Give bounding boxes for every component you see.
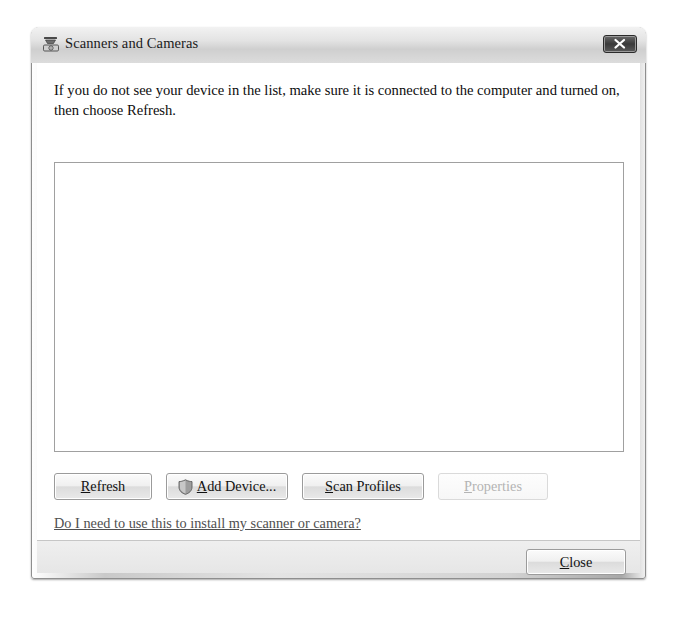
refresh-accel: R: [81, 478, 91, 494]
add-device-label: dd Device...: [207, 478, 276, 494]
help-link[interactable]: Do I need to use this to install my scan…: [54, 515, 361, 532]
add-device-button[interactable]: Add Device...: [166, 473, 288, 500]
refresh-button[interactable]: Refresh: [54, 473, 152, 500]
device-list-box[interactable]: [54, 162, 624, 452]
scan-profiles-button[interactable]: Scan Profiles: [302, 473, 424, 500]
add-device-accel: A: [197, 478, 207, 494]
title-bar: Scanners and Cameras: [31, 27, 646, 63]
close-button[interactable]: Close: [526, 549, 626, 575]
properties-button: Properties: [438, 473, 548, 500]
scanner-camera-icon: [42, 36, 60, 53]
close-accel: C: [560, 554, 570, 570]
window-title: Scanners and Cameras: [65, 35, 198, 52]
scan-profiles-accel: S: [325, 478, 333, 494]
instructions-text: If you do not see your device in the lis…: [54, 80, 622, 120]
properties-accel: P: [464, 478, 472, 494]
close-icon[interactable]: [603, 35, 637, 53]
client-area: If you do not see your device in the lis…: [37, 63, 640, 540]
button-row: Refresh Add Device... Scan Profiles Prop…: [54, 473, 624, 501]
refresh-label: efresh: [90, 478, 125, 494]
scanners-and-cameras-window: Scanners and Cameras If you do not see y…: [31, 27, 646, 579]
uac-shield-icon: [178, 479, 193, 495]
close-label: lose: [569, 554, 592, 570]
scan-profiles-label: can Profiles: [333, 478, 401, 494]
properties-label: roperties: [472, 478, 522, 494]
footer-bar: Close: [37, 540, 640, 573]
